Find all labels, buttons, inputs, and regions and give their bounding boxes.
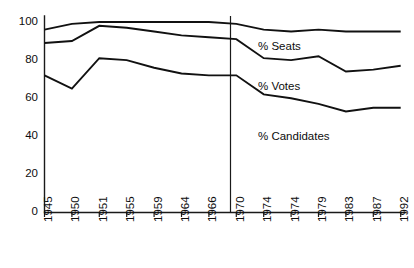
x-tick-1966: 1966 [206, 196, 218, 222]
y-tick-0: 0 [32, 205, 38, 217]
chart-canvas: 100 80 60 40 20 0 [0, 0, 414, 268]
y-tick-60: 60 [25, 91, 38, 103]
series-group [45, 22, 401, 112]
line-chart: 100 80 60 40 20 0 [0, 0, 414, 268]
series-labels: % Seats % Votes % Candidates [258, 40, 330, 142]
y-tick-80: 80 [25, 53, 38, 65]
x-tick-1983: 1983 [343, 196, 355, 222]
series-line-candidates [45, 58, 401, 111]
x-tick-1964: 1964 [179, 196, 191, 222]
x-axis-tick-labels: 1945 1950 1951 1955 1959 1964 1966 1970 … [42, 196, 410, 222]
x-tick-1974-feb: 1974 [261, 196, 273, 222]
x-tick-1950: 1950 [69, 196, 81, 222]
x-tick-1951: 1951 [97, 196, 109, 222]
x-tick-1970: 1970 [234, 196, 246, 222]
y-axis-tick-labels: 100 80 60 40 20 0 [19, 15, 38, 217]
x-tick-1992: 1992 [398, 196, 410, 222]
series-label-seats: % Seats [258, 40, 301, 52]
x-tick-1987: 1987 [371, 196, 383, 222]
chart-axes [45, 16, 407, 213]
x-tick-1974-oct: 1974 [289, 196, 301, 222]
x-tick-1959: 1959 [152, 196, 164, 222]
series-label-votes: % Votes [258, 80, 300, 92]
y-tick-100: 100 [19, 15, 38, 27]
y-tick-40: 40 [25, 129, 38, 141]
y-tick-20: 20 [25, 167, 38, 179]
series-label-candidates: % Candidates [258, 130, 330, 142]
x-tick-1945: 1945 [42, 196, 54, 222]
x-tick-1955: 1955 [124, 196, 136, 222]
series-line-votes [45, 26, 401, 72]
x-tick-1979: 1979 [316, 196, 328, 222]
